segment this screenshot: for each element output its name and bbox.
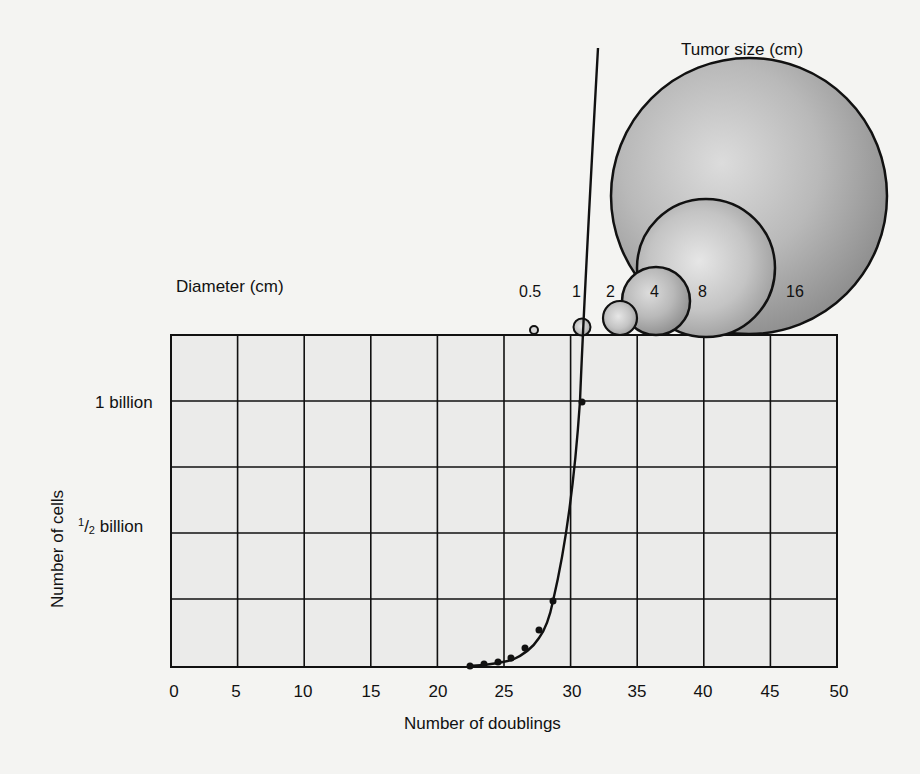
y-tick-half-billion: 1/2 billion xyxy=(78,516,143,536)
svg-text:25: 25 xyxy=(495,682,514,701)
x-axis-label: Number of doublings xyxy=(404,714,561,733)
y-axis-label: Number of cells xyxy=(48,490,67,608)
y-tick-1-billion: 1 billion xyxy=(95,393,153,412)
svg-text:10: 10 xyxy=(294,682,313,701)
tumor-growth-chart: Tumor size (cm) Diameter (cm) 0.5 1 2 4 … xyxy=(0,0,920,774)
svg-text:5: 5 xyxy=(231,682,240,701)
svg-text:50: 50 xyxy=(830,682,849,701)
svg-text:4: 4 xyxy=(650,283,659,300)
svg-text:35: 35 xyxy=(628,682,647,701)
svg-text:15: 15 xyxy=(362,682,381,701)
sphere-2cm xyxy=(603,301,637,335)
sphere-0.5cm xyxy=(530,326,538,334)
svg-text:20: 20 xyxy=(429,682,448,701)
diameter-label: Diameter (cm) xyxy=(176,277,284,296)
svg-text:2: 2 xyxy=(606,283,615,300)
svg-text:8: 8 xyxy=(698,283,707,300)
svg-text:16: 16 xyxy=(786,283,804,300)
svg-text:0: 0 xyxy=(169,682,178,701)
x-tick-labels: 0 5 10 15 20 25 30 35 40 45 50 xyxy=(169,682,848,701)
tumor-size-label: Tumor size (cm) xyxy=(681,40,803,59)
tumor-size-spheres xyxy=(530,58,887,337)
svg-text:30: 30 xyxy=(563,682,582,701)
svg-text:1: 1 xyxy=(572,283,581,300)
svg-text:40: 40 xyxy=(694,682,713,701)
svg-text:45: 45 xyxy=(761,682,780,701)
svg-text:0.5: 0.5 xyxy=(519,283,541,300)
